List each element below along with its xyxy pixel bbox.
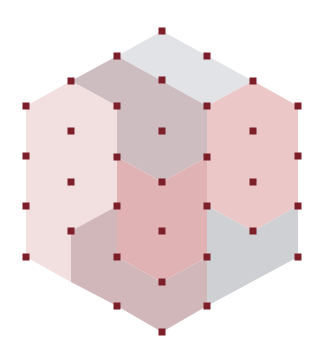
lattice-dot (114, 254, 121, 261)
lattice-dot (23, 203, 30, 210)
lattice-dot (114, 203, 121, 210)
lattice-dot (250, 228, 257, 235)
right-pink-hex (207, 81, 298, 231)
lattice-dot (159, 228, 166, 235)
lattice-dot (295, 254, 302, 261)
lattice-dot (23, 103, 30, 110)
lattice-dot (250, 179, 257, 186)
lattice-dot (68, 179, 75, 186)
lattice-dot (204, 103, 211, 110)
lattice-dot (204, 254, 211, 261)
hex-lattice-diagram (0, 0, 320, 361)
diagram-canvas (0, 0, 320, 361)
lattice-dot (23, 254, 30, 261)
lattice-dot (250, 78, 257, 85)
lattice-dot (295, 203, 302, 210)
lattice-dot (159, 279, 166, 286)
lattice-dot (159, 329, 166, 336)
lattice-dot (204, 203, 211, 210)
lattice-dot (114, 53, 121, 60)
lattice-dot (114, 303, 121, 310)
lattice-dot (295, 103, 302, 110)
lattice-dot (114, 103, 121, 110)
lattice-dot (159, 77, 166, 84)
lattice-dot (159, 179, 166, 186)
lattice-dot (204, 53, 211, 60)
lattice-dot (204, 154, 211, 161)
lattice-dot (114, 154, 121, 161)
lattice-dot (68, 78, 75, 85)
lattice-dot (159, 128, 166, 135)
lattice-dot (295, 153, 302, 160)
lattice-dot (159, 28, 166, 35)
lattice-dot (23, 153, 30, 160)
lattice-dot (68, 228, 75, 235)
lattice-dot (68, 128, 75, 135)
lattice-dot (250, 128, 257, 135)
lattice-dot (204, 303, 211, 310)
